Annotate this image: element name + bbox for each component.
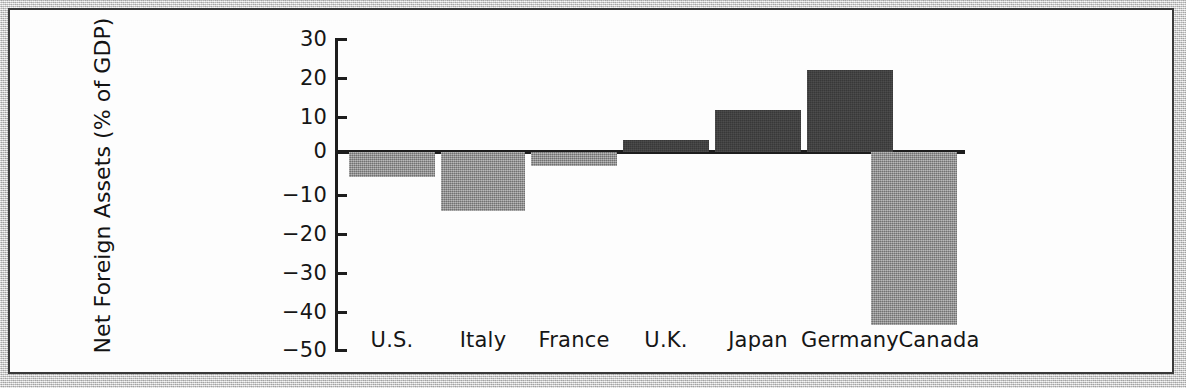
- x-axis-label-uk: U.K.: [616, 328, 716, 352]
- x-axis-label-italy: Italy: [433, 328, 533, 352]
- y-tick-label: 20: [267, 66, 327, 90]
- figure-scanned-page: Net Foreign Assets (% of GDP) 30 20 10 0…: [0, 0, 1186, 388]
- y-tick-label: 30: [267, 27, 327, 51]
- y-tick-label: 0: [267, 139, 327, 163]
- bar-france: [531, 152, 617, 166]
- y-tick-mark: [338, 150, 347, 153]
- bar-japan: [715, 110, 801, 152]
- y-axis-title: Net Foreign Assets (% of GDP): [90, 24, 115, 354]
- bar-us: [349, 152, 435, 177]
- y-tick-mark: [338, 38, 347, 41]
- bar-chart: Net Foreign Assets (% of GDP) 30 20 10 0…: [0, 0, 1186, 388]
- y-tick-label: −40: [267, 300, 327, 324]
- y-tick-label: −20: [267, 222, 327, 246]
- y-tick-label: −30: [267, 261, 327, 285]
- bar-canada: [871, 152, 957, 325]
- y-tick-mark: [338, 272, 347, 275]
- y-tick-mark: [338, 233, 347, 236]
- bar-uk: [623, 140, 709, 152]
- x-axis-label-canada: Canada: [884, 328, 994, 352]
- y-tick-mark: [338, 116, 347, 119]
- y-tick-mark: [338, 77, 347, 80]
- x-axis-label-us: U.S.: [342, 328, 442, 352]
- y-tick-label: −10: [267, 183, 327, 207]
- bar-germany: [807, 70, 893, 152]
- y-tick-mark: [338, 311, 347, 314]
- y-tick-label: 10: [267, 105, 327, 129]
- y-tick-label: −50: [267, 338, 327, 362]
- y-tick-mark: [338, 194, 347, 197]
- x-axis-label-france: France: [524, 328, 624, 352]
- bar-italy: [441, 152, 525, 211]
